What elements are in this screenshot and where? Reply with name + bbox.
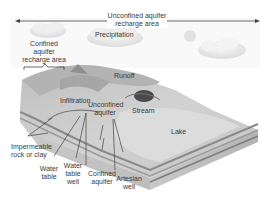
infiltration-label: Infiltration (60, 97, 90, 105)
precipitation-label: Precipitation (95, 31, 134, 39)
unconfined-aquifer-label: Unconfined aquifer (88, 101, 122, 117)
water-table-well-label: Water table well (63, 162, 83, 186)
stream-label: Stream (132, 107, 155, 115)
lake-label: Lake (171, 128, 186, 136)
confined-aquifer-label: Confined aquifer (86, 170, 118, 186)
stream-water (134, 90, 154, 102)
impermeable-label: Impermeable rock or clay (11, 143, 52, 159)
cloud-icon (30, 22, 66, 38)
confined-recharge-label: Confined aquifer recharge area (22, 40, 66, 64)
water-table-label: Water table (38, 165, 60, 181)
unconfined-recharge-label: Unconfined aquifer recharge area (107, 12, 167, 28)
aquifer-diagram: Unconfined aquifer recharge area Precipi… (0, 0, 274, 202)
runoff-label: Runoff (114, 72, 135, 80)
artesian-well-label: Artesian well (115, 175, 143, 191)
